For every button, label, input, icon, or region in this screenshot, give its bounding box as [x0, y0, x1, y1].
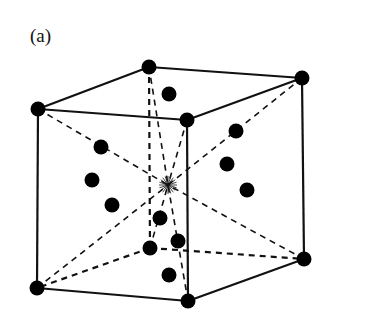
- cube-edge: [38, 109, 187, 120]
- cube-edge: [302, 78, 304, 259]
- unit-cell-diagram: [0, 0, 383, 324]
- interior-atom: [85, 173, 100, 188]
- corner-atom: [297, 252, 312, 267]
- diagonal-line: [168, 120, 187, 185]
- center-star: [159, 176, 177, 194]
- corner-atom: [180, 113, 195, 128]
- interior-atom: [153, 211, 168, 226]
- cube-edge: [38, 67, 149, 109]
- interior-atom: [220, 157, 235, 172]
- diagonal-line: [149, 67, 168, 185]
- corner-atom: [142, 60, 157, 75]
- hidden-edge: [149, 67, 150, 248]
- interior-atom: [240, 183, 255, 198]
- diagonal-line: [37, 185, 168, 288]
- corner-atom: [143, 241, 158, 256]
- corner-atom: [30, 281, 45, 296]
- cube-edge: [37, 288, 188, 301]
- hidden-edge: [37, 248, 150, 288]
- interior-atom: [105, 198, 120, 213]
- cube-edge: [37, 109, 38, 288]
- corner-atom: [295, 71, 310, 86]
- cube-edge: [188, 259, 304, 301]
- interior-atom: [229, 124, 244, 139]
- cube-edge: [187, 120, 188, 301]
- corner-atom: [181, 294, 196, 309]
- hidden-edge: [150, 248, 304, 259]
- interior-atom: [171, 234, 186, 249]
- interior-atom: [94, 140, 109, 155]
- corner-atom: [31, 102, 46, 117]
- cube-edge: [149, 67, 302, 78]
- interior-atom: [162, 87, 177, 102]
- interior-atom: [162, 268, 177, 283]
- cube-edge: [187, 78, 302, 120]
